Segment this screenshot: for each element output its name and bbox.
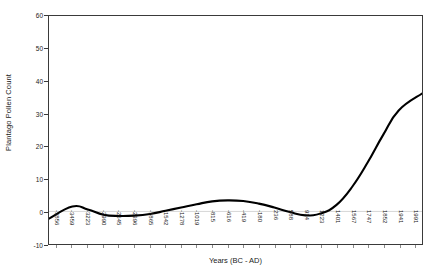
x-tick-label: -1278 [176, 210, 185, 250]
x-axis-title: Years (BC - AD) [48, 256, 423, 265]
y-tick-label: 30 [36, 110, 43, 117]
x-tick-label: -1865 [145, 210, 154, 250]
y-tick-label: 40 [36, 77, 43, 84]
x-tick-label: 1747 [364, 210, 373, 250]
x-tick-label: -2990 [98, 210, 107, 250]
x-tick-label: -419 [239, 210, 248, 250]
x-tick-label: -1542 [161, 210, 170, 250]
pollen-count-line [49, 94, 422, 219]
x-tick-label: -2645 [114, 210, 123, 250]
y-tick-label: 10 [36, 176, 43, 183]
x-tick-label: -815 [208, 210, 217, 250]
chart-screenshot: Plantago Pollen Count -100102030405060 -… [0, 0, 443, 280]
y-tick-mark [44, 15, 48, 16]
y-tick-label: 60 [36, 12, 43, 19]
y-tick-label: 20 [36, 143, 43, 150]
x-tick-label: 1567 [348, 210, 357, 250]
x-tick-label: 588 [286, 210, 295, 250]
y-tick-label: 50 [36, 44, 43, 51]
x-tick-label: 1991 [411, 210, 420, 250]
x-tick-label: -3223 [83, 210, 92, 250]
x-tick-label: 1941 [395, 210, 404, 250]
y-tick-mark [44, 179, 48, 180]
x-axis-tick-labels: -3856-3459-3223-2990-2645-2396-1865-1542… [0, 210, 443, 255]
x-tick-label: -2396 [129, 210, 138, 250]
y-axis-title: Plantago Pollen Count [0, 0, 16, 225]
y-tick-mark [44, 114, 48, 115]
x-tick-label: 1223 [317, 210, 326, 250]
x-tick-label: 236 [270, 210, 279, 250]
y-tick-mark [44, 81, 48, 82]
x-tick-label: -3459 [67, 210, 76, 250]
y-tick-mark [44, 146, 48, 147]
x-tick-label: -616 [223, 210, 232, 250]
x-tick-label: 1852 [379, 210, 388, 250]
y-axis-title-label: Plantago Pollen Count [4, 74, 13, 151]
x-tick-label: -180 [254, 210, 263, 250]
x-tick-label: 914 [301, 210, 310, 250]
y-tick-mark [44, 48, 48, 49]
x-tick-label: -1019 [192, 210, 201, 250]
x-tick-label: 1401 [333, 210, 342, 250]
x-axis-title-label: Years (BC - AD) [209, 256, 262, 265]
x-tick-label: -3856 [51, 210, 60, 250]
